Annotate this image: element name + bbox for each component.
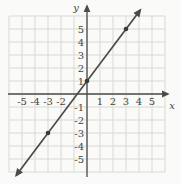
x-tick-label: -4 <box>30 96 40 107</box>
x-tick-label: 1 <box>97 96 103 107</box>
y-tick-label: 5 <box>78 24 84 35</box>
line-graph: -5-4-3-21234554321-1-2-3-4-5xy <box>0 0 181 184</box>
y-tick-label: -5 <box>74 154 84 165</box>
x-tick-label: 3 <box>123 96 129 107</box>
y-tick-label: 4 <box>78 37 84 48</box>
data-point <box>46 131 51 136</box>
x-tick-label: -5 <box>17 96 27 107</box>
y-tick-label: 3 <box>78 50 84 61</box>
x-tick-label: 2 <box>110 96 116 107</box>
coordinate-plane-figure: -5-4-3-21234554321-1-2-3-4-5xy <box>0 0 181 184</box>
y-tick-label: -1 <box>74 102 84 113</box>
y-tick-label: -4 <box>74 141 84 152</box>
x-tick-label: -3 <box>43 96 53 107</box>
x-tick-label: -2 <box>56 96 66 107</box>
x-tick-label: 5 <box>149 96 155 107</box>
x-axis-label: x <box>169 100 175 111</box>
y-tick-label: -3 <box>74 128 84 139</box>
y-axis-label: y <box>72 2 79 13</box>
data-point <box>85 79 90 84</box>
x-tick-label: 4 <box>136 96 142 107</box>
y-tick-label: 1 <box>78 76 84 87</box>
y-tick-label: -2 <box>74 115 84 126</box>
y-tick-label: 2 <box>78 63 84 74</box>
data-point <box>124 27 129 32</box>
figure-background <box>0 0 181 184</box>
